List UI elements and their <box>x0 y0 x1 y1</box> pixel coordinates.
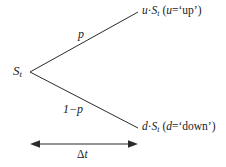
node-down-annotation-close: ) <box>212 120 216 132</box>
node-root-subscript: t <box>20 69 22 79</box>
edge-up <box>30 12 138 72</box>
arrowhead-left <box>30 140 40 148</box>
edge-label-probability-down: 1−p <box>63 103 83 115</box>
edge-label-probability-up: p <box>78 28 84 40</box>
time-axis-arrow <box>30 140 138 148</box>
tree-edges-svg <box>0 0 226 167</box>
node-up: u·St (u=‘up’) <box>142 5 202 17</box>
binomial-tree-diagram: St p 1−p u·St (u=‘up’) d·St (d=‘down’) Δ… <box>0 0 226 167</box>
node-down-subscript: t <box>157 125 159 134</box>
node-up-subscript: t <box>157 9 159 18</box>
time-variable: t <box>84 148 87 160</box>
node-root-symbol: S <box>13 63 20 78</box>
time-axis-label: Δt <box>77 149 88 161</box>
node-down-annotation-value: ‘down’ <box>178 120 211 132</box>
edge-down <box>30 72 138 128</box>
node-up-annotation-value: ‘up’ <box>178 4 197 16</box>
node-up-annotation-close: ) <box>198 4 202 16</box>
node-down: d·St (d=‘down’) <box>142 121 216 133</box>
arrowhead-right <box>128 140 138 148</box>
node-root: St <box>13 64 22 77</box>
